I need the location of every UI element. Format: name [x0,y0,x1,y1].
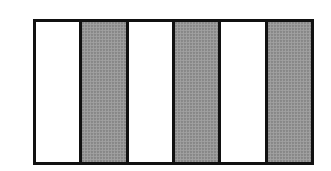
shaded-part [268,22,311,162]
unshaded-part [221,22,267,162]
shaded-part [82,22,128,162]
unshaded-part [36,22,82,162]
fraction-rectangle [33,19,314,165]
unshaded-part [129,22,175,162]
shaded-part [175,22,221,162]
